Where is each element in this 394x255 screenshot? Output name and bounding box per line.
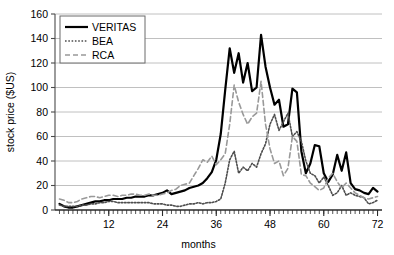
- y-axis-ticks: 020406080100120140160: [30, 8, 55, 216]
- y-tick-label-20: 20: [36, 179, 48, 191]
- x-tick-label-72: 72: [372, 218, 384, 230]
- y-tick-label-120: 120: [30, 57, 48, 69]
- x-tick-label-48: 48: [264, 218, 276, 230]
- x-tick-label-60: 60: [318, 218, 330, 230]
- legend-label-veritas: VERITAS: [92, 21, 136, 33]
- stock-price-line-chart: 020406080100120140160122436486072monthss…: [0, 0, 394, 255]
- y-tick-label-80: 80: [36, 106, 48, 118]
- x-tick-label-24: 24: [157, 218, 169, 230]
- y-axis-title: stock price ($US): [4, 72, 16, 153]
- y-tick-label-0: 0: [42, 204, 48, 216]
- y-tick-label-60: 60: [36, 130, 48, 142]
- y-tick-label-160: 160: [30, 8, 48, 20]
- y-tick-label-140: 140: [30, 32, 48, 44]
- legend-label-bea: BEA: [92, 35, 113, 47]
- legend: VERITASBEARCA: [60, 16, 145, 63]
- chart-canvas: 020406080100120140160122436486072monthss…: [0, 0, 394, 255]
- x-axis-title: months: [181, 238, 215, 250]
- x-tick-label-36: 36: [210, 218, 222, 230]
- y-tick-label-100: 100: [30, 81, 48, 93]
- legend-label-rca: RCA: [92, 49, 114, 61]
- y-tick-label-40: 40: [36, 155, 48, 167]
- x-tick-label-12: 12: [103, 218, 115, 230]
